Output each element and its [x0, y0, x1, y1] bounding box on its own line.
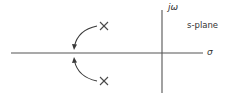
lower-pole-marker-icon — [100, 77, 108, 85]
lower-locus-arrow-icon — [72, 57, 97, 81]
upper-locus-arrow-icon — [72, 26, 97, 50]
diagram-canvas — [0, 0, 226, 97]
imaginary-axis-label: jω — [168, 3, 178, 12]
plane-label: s-plane — [187, 21, 218, 30]
upper-pole-marker-icon — [100, 22, 108, 30]
real-axis-label: σ — [207, 48, 213, 57]
